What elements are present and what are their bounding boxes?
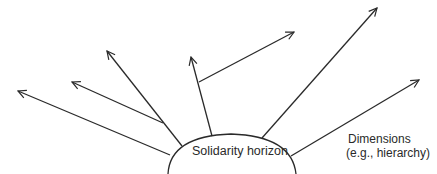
dimension-arrow <box>262 8 377 138</box>
dimension-arrow <box>72 82 163 123</box>
dimension-arrow <box>18 91 170 155</box>
dimensions-label-line2: (e.g., hierarchy) <box>346 146 430 161</box>
center-label: Solidarity horizon <box>192 144 288 159</box>
dimension-arrow <box>107 51 182 146</box>
dimension-arrow <box>199 32 294 82</box>
dimensions-label-line1: Dimensions <box>348 132 411 147</box>
dimension-arrow <box>191 57 212 136</box>
diagram-canvas: Solidarity horizon Dimensions (e.g., hie… <box>0 0 437 174</box>
